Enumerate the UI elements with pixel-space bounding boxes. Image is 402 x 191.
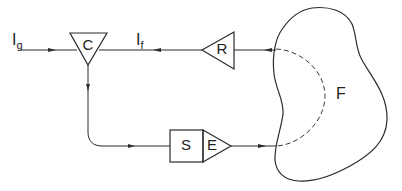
region-f-label: F (336, 85, 346, 102)
control-path (88, 65, 170, 146)
arrow-left-icon (264, 48, 272, 52)
signal-if-label: If (136, 31, 144, 51)
arrow-down-icon (86, 84, 90, 91)
arrow-right-icon (48, 48, 56, 52)
arrow-right-icon (258, 144, 266, 148)
region-f-dashed-path (276, 49, 325, 146)
block-r-label: R (217, 40, 228, 57)
region-f-outline (273, 8, 387, 182)
block-e-label: E (207, 136, 217, 153)
arrow-right-icon (128, 144, 135, 148)
block-c-label: C (83, 36, 94, 53)
block-s-label: S (181, 136, 191, 153)
arrow-left-icon (153, 48, 161, 52)
block-diagram: F Ig C If R S E (0, 0, 402, 191)
signal-ig-label: Ig (12, 31, 23, 51)
